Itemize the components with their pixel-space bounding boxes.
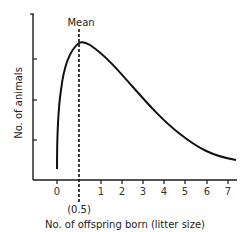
mean-label: Mean <box>67 17 94 28</box>
litter-size-chart: 01234567 Mean (0.5) No. of offspring bor… <box>0 0 247 232</box>
x-tick-label: 5 <box>182 186 188 197</box>
distribution-curve <box>57 42 236 169</box>
x-axis-label: No. of offspring born (litter size) <box>45 219 205 230</box>
y-axis-label: No. of animals <box>13 67 24 139</box>
x-tick-label: 7 <box>225 186 231 197</box>
x-tick-label: 6 <box>204 186 210 197</box>
mean-value-label: (0.5) <box>67 204 91 215</box>
x-tick-label: 1 <box>98 186 104 197</box>
x-tick-label: 2 <box>119 186 125 197</box>
x-ticks: 01234567 <box>54 180 231 197</box>
x-tick-label: 0 <box>54 186 60 197</box>
x-tick-label: 4 <box>161 186 167 197</box>
x-tick-label: 3 <box>140 186 146 197</box>
